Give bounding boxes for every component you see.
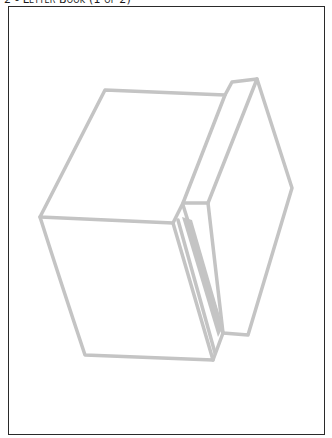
box-illustration — [0, 0, 332, 438]
box-front-face — [40, 217, 213, 360]
box-right-face — [208, 79, 292, 335]
box-spine — [183, 79, 257, 203]
